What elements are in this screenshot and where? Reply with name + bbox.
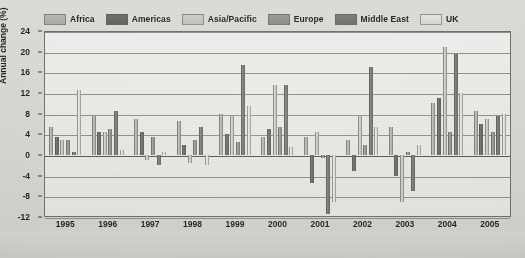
bar-middle-east-1999	[241, 65, 245, 155]
y-tick-mark	[38, 196, 42, 197]
bar-americas-1995	[55, 137, 59, 155]
legend-item-africa: Africa	[44, 14, 95, 25]
y-tick-label: 24	[21, 26, 30, 36]
legend-item-uk: UK	[420, 14, 458, 25]
bar-africa-2005	[474, 111, 478, 155]
y-tick-label: -8	[22, 191, 30, 201]
y-tick-label: 20	[21, 47, 30, 57]
bar-asia-pacific-1996	[103, 132, 107, 155]
bar-asia-pacific-1997	[145, 155, 149, 160]
bar-americas-1998	[182, 145, 186, 155]
bar-uk-1998	[205, 155, 209, 165]
y-tick-label: 0	[25, 150, 30, 160]
bar-middle-east-2005	[496, 116, 500, 155]
legend-swatch-icon	[44, 14, 66, 25]
bar-uk-2003	[417, 145, 421, 155]
bar-europe-2003	[406, 152, 410, 155]
bar-asia-pacific-2003	[400, 155, 404, 202]
bar-africa-1997	[134, 119, 138, 155]
bar-middle-east-1996	[114, 111, 118, 155]
bar-middle-east-2001	[326, 155, 330, 214]
x-tick-label: 2004	[438, 219, 457, 229]
y-tick-label: 16	[21, 67, 30, 77]
legend-swatch-icon	[182, 14, 204, 25]
bar-asia-pacific-2005	[485, 119, 489, 155]
y-tick-mark	[38, 51, 42, 52]
x-tick-label: 1999	[226, 219, 245, 229]
bar-europe-2002	[363, 145, 367, 155]
bar-asia-pacific-2004	[443, 47, 447, 156]
bar-group-1999	[214, 31, 256, 217]
x-tick-label: 2005	[480, 219, 499, 229]
y-tick-mark	[38, 134, 42, 135]
bar-uk-1999	[247, 106, 251, 155]
bar-uk-2000	[289, 147, 293, 155]
y-tick-mark	[38, 113, 42, 114]
y-tick-label: 4	[25, 129, 30, 139]
legend-item-asia-pacific: Asia/Pacific	[182, 14, 257, 25]
legend-swatch-icon	[420, 14, 442, 25]
bar-group-2003	[384, 31, 426, 217]
bar-uk-2002	[374, 127, 378, 155]
legend-swatch-icon	[268, 14, 290, 25]
bar-group-2002	[341, 31, 383, 217]
legend-label: Africa	[70, 14, 95, 24]
bar-middle-east-1998	[199, 127, 203, 155]
bar-uk-2004	[459, 93, 463, 155]
bar-asia-pacific-2002	[358, 116, 362, 155]
bar-uk-2005	[502, 114, 506, 155]
bar-africa-1995	[49, 127, 53, 155]
bar-group-2005	[469, 31, 511, 217]
bar-americas-1997	[140, 132, 144, 155]
y-tick-mark	[38, 155, 42, 156]
legend-label: UK	[446, 14, 458, 24]
plot-area	[44, 31, 511, 217]
x-tick-label: 2002	[353, 219, 372, 229]
bar-group-1998	[171, 31, 213, 217]
bar-group-1997	[129, 31, 171, 217]
bar-uk-2001	[332, 155, 336, 202]
bar-europe-2001	[321, 155, 325, 158]
bar-middle-east-2003	[411, 155, 415, 191]
bar-africa-2004	[431, 103, 435, 155]
bar-africa-2000	[261, 137, 265, 155]
bar-americas-2003	[394, 155, 398, 176]
bar-uk-1997	[162, 152, 166, 155]
bar-africa-1998	[177, 121, 181, 155]
bar-middle-east-1995	[72, 152, 76, 155]
legend-item-europe: Europe	[268, 14, 324, 25]
bar-group-1995	[44, 31, 86, 217]
bar-europe-1996	[108, 129, 112, 155]
bar-uk-1996	[120, 150, 124, 155]
bar-middle-east-2000	[284, 85, 288, 155]
legend-swatch-icon	[335, 14, 357, 25]
bar-europe-1999	[236, 142, 240, 155]
bar-americas-2000	[267, 129, 271, 155]
legend-label: Middle East	[361, 14, 409, 24]
bar-americas-1999	[225, 134, 229, 155]
bar-group-1996	[86, 31, 128, 217]
bar-americas-2001	[310, 155, 314, 183]
legend-swatch-icon	[106, 14, 128, 25]
bar-uk-1995	[77, 90, 81, 155]
bar-americas-1996	[97, 132, 101, 155]
y-tick-mark	[38, 31, 42, 32]
y-tick-mark	[38, 93, 42, 94]
bar-asia-pacific-2001	[315, 132, 319, 155]
caption-bar: Figure 8.1International arrivals by worl…	[0, 231, 525, 258]
y-tick-label: -12	[18, 212, 30, 222]
bar-africa-1999	[219, 114, 223, 155]
bar-americas-2004	[437, 98, 441, 155]
legend-label: Europe	[294, 14, 324, 24]
bar-europe-1995	[66, 140, 70, 156]
figure-container: AfricaAmericasAsia/PacificEuropeMiddle E…	[0, 0, 525, 258]
y-tick-label: 12	[21, 88, 30, 98]
bar-asia-pacific-1999	[230, 116, 234, 155]
bar-africa-2002	[346, 140, 350, 156]
bar-europe-1997	[151, 137, 155, 155]
x-tick-label: 2003	[395, 219, 414, 229]
bar-asia-pacific-1998	[188, 155, 192, 163]
bar-group-2004	[426, 31, 468, 217]
bar-europe-1998	[193, 140, 197, 156]
bar-europe-2004	[448, 132, 452, 155]
